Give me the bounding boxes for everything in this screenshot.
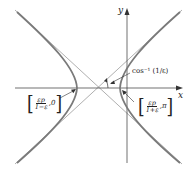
hyperbola-left-branch — [17, 12, 77, 163]
left-vertex-denominator: 1−ε — [35, 104, 48, 111]
angle-label: cos⁻¹ (1/ε) — [132, 68, 168, 75]
hyperbola-diagram — [0, 0, 188, 172]
left-vertex-fraction: εp 1−ε — [35, 97, 48, 111]
right-vertex-denominator: 1+ε — [146, 107, 159, 114]
left-vertex-arrow-icon — [71, 89, 76, 93]
y-axis-arrow-icon — [125, 8, 130, 15]
y-axis-label: y — [118, 6, 123, 15]
x-axis-label: x — [178, 91, 183, 100]
right-bracket: ] — [55, 93, 62, 114]
right-vertex-fraction: εp 1+ε — [146, 100, 159, 114]
hyperbola-right-branch — [120, 12, 180, 163]
left-bracket: [ — [138, 96, 145, 117]
right-bracket: ] — [167, 96, 174, 117]
left-bracket: [ — [27, 93, 34, 114]
left-vertex-label: [ εp 1−ε , 0 ] — [27, 95, 62, 112]
right-vertex-label: [ εp 1+ε , π ] — [138, 98, 173, 115]
